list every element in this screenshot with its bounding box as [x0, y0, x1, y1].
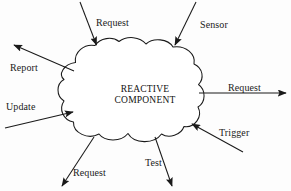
- flow-label-trigger-in-right: Trigger: [219, 128, 249, 138]
- reactive-component-label-line1: REACTIVE: [102, 84, 188, 95]
- flow-arrow-update-in-left: [5, 112, 73, 128]
- flow-arrow-request-out-bottom-left: [62, 137, 94, 186]
- flow-label-request-in-top: Request: [96, 18, 129, 28]
- reactive-component-label: REACTIVE COMPONENT: [102, 84, 188, 106]
- flow-label-test-out-bottom: Test: [145, 158, 162, 168]
- reactive-component-label-line2: COMPONENT: [102, 95, 188, 106]
- flow-arrow-sensor-in-top: [175, 2, 196, 45]
- flow-label-request-out-right: Request: [228, 83, 261, 93]
- flow-label-sensor-in-top: Sensor: [200, 20, 228, 30]
- flow-label-report-out-left: Report: [10, 63, 38, 73]
- flow-label-request-out-bottom-left: Request: [73, 168, 106, 178]
- flow-arrow-request-in-top: [80, 2, 97, 45]
- diagram-canvas: REACTIVE COMPONENT Request Sensor Report…: [0, 0, 291, 191]
- flow-label-update-in-left: Update: [6, 102, 35, 112]
